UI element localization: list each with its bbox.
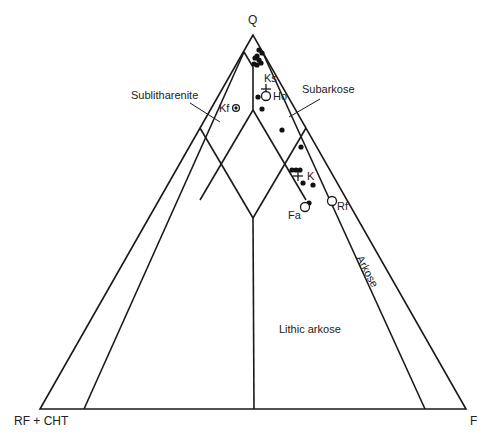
ternary-diagram: Q RF + CHT F Sublitharenite Subarkose Ar…: [0, 0, 498, 444]
vertex-label-q: Q: [248, 13, 257, 27]
leader-subarkose: [289, 99, 320, 117]
diagram-lines: [40, 35, 466, 409]
sample-label-ks: Ks: [264, 72, 277, 84]
vertex-label-rf-cht: RF + CHT: [14, 414, 69, 428]
diamond-line-1: [200, 110, 253, 200]
open-circle-ho: [262, 92, 271, 101]
dotted-circle-kf-center: [235, 107, 237, 109]
sample-label-ho: Ho: [273, 90, 287, 102]
sample-label-fa: Fa: [288, 209, 302, 221]
field-label-arkose: Arkose: [354, 253, 381, 289]
field-label-subarkose: Subarkose: [302, 83, 355, 95]
field-label-sublitharenite: Sublitharenite: [131, 89, 198, 101]
diamond-line-3: [253, 110, 306, 200]
sample-label-rf: Rf: [337, 200, 349, 212]
open-circle-fa: [301, 203, 310, 212]
diamond-line-2: [200, 128, 253, 218]
vertex-label-f: F: [470, 414, 477, 428]
inner-right-line: [262, 51, 425, 409]
sample-label-k: K: [307, 170, 315, 182]
sample-label-kf: Kf: [219, 102, 230, 114]
field-label-lithic-arkose: Lithic arkose: [279, 323, 341, 335]
open-circle-rf: [328, 197, 337, 206]
center-lower-line: [253, 218, 254, 409]
